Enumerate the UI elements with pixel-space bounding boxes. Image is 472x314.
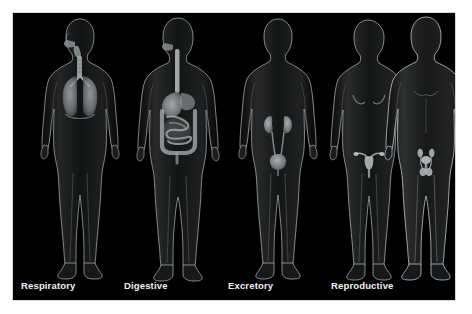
body-silhouette [385,17,455,280]
excretory-figure [231,13,326,300]
reproductive-male-figure [381,13,455,300]
right-ovary-organ [353,152,358,156]
trachea-organ [77,56,82,78]
label-reproductive-system: Reproductive System [331,268,394,300]
label-digestive-system: Digestive System [124,268,168,300]
respiratory-figure [33,13,128,300]
anatomy-poster-panel: Respiratory System Digestive System Excr… [13,13,455,300]
label-excretory-line1: Excretory [228,280,273,292]
label-respiratory-line1: Respiratory [21,280,75,292]
label-excretory-system: Excretory System [228,268,273,300]
label-respiratory-system: Respiratory System [21,268,75,300]
label-digestive-line1: Digestive [124,280,168,292]
label-reproductive-line1: Reproductive [331,280,394,292]
esophagus-organ [175,49,180,93]
body-silhouette [239,19,317,279]
digestive-figure [131,13,226,300]
